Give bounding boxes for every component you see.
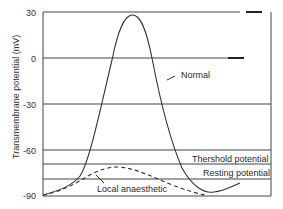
action-potential-chart: 30 0 -30 -60 -90 Transmembrane potential… [0,0,283,209]
local-anaesthetic-label: Local anaesthetic [97,184,167,194]
y-axis-label: Transmembrane potential (mV) [11,39,21,159]
y-tick-30: 30 [16,8,36,18]
normal-label: Normal [181,70,210,80]
resting-label: Resting potential [203,168,270,178]
y-tick-minus90: -90 [16,191,36,201]
threshold-label: Thershold potential [192,154,269,164]
normal-pointer [167,76,175,80]
